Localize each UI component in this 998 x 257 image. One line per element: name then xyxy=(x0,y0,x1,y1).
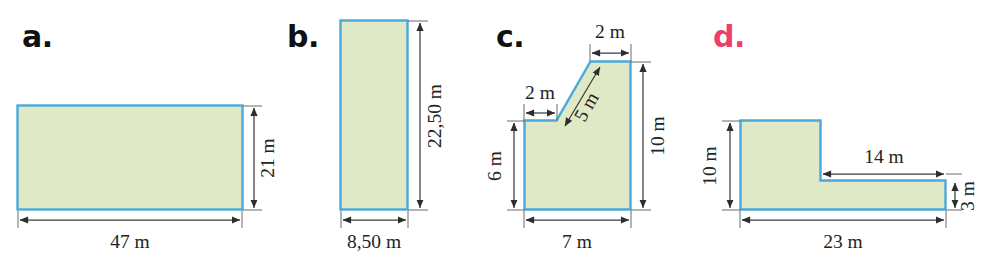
figure-d-label: d. xyxy=(713,19,745,54)
figure-c-label: c. xyxy=(496,19,524,54)
figure-a: a. 47 m 21 m xyxy=(18,19,279,252)
figure-d: d. 10 m 14 m 3 m 23 m xyxy=(699,19,978,252)
figure-d-left-label: 10 m xyxy=(699,146,720,186)
figure-c-left-label: 6 m xyxy=(484,151,505,181)
figure-a-rectangle xyxy=(18,106,243,210)
figure-d-polygon xyxy=(741,121,946,210)
figure-c-step-label: 2 m xyxy=(525,82,555,103)
geometry-figures-svg: a. 47 m 21 m b. 8,50 m xyxy=(0,0,998,257)
figure-b-label: b. xyxy=(287,19,319,54)
figure-a-label: a. xyxy=(22,19,53,54)
figure-b-height-label: 22,50 m xyxy=(424,84,445,148)
figure-c: c. 2 m 2 m 5 m 6 m 10 m xyxy=(484,19,668,252)
worksheet-figure-panel: a. 47 m 21 m b. 8,50 m xyxy=(0,0,998,257)
figure-b-rectangle xyxy=(341,21,408,210)
figure-d-arm-label: 14 m xyxy=(864,146,904,167)
figure-b-width-label: 8,50 m xyxy=(347,231,401,252)
figure-c-base-label: 7 m xyxy=(562,231,592,252)
figure-b: b. 8,50 m 22,50 m xyxy=(287,19,445,252)
figure-c-top-label: 2 m xyxy=(595,21,625,42)
figure-a-width-label: 47 m xyxy=(110,231,150,252)
figure-d-base-label: 23 m xyxy=(823,231,863,252)
figure-d-arm-height-label: 3 m xyxy=(957,181,978,211)
figure-a-height-label: 21 m xyxy=(257,138,278,178)
figure-c-right-label: 10 m xyxy=(647,116,668,156)
